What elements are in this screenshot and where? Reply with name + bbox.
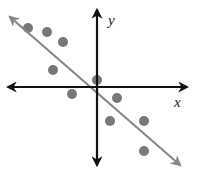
data-point — [48, 65, 58, 75]
y-axis-label: y — [106, 12, 115, 28]
data-point — [42, 27, 52, 37]
data-point — [139, 116, 149, 126]
data-point — [112, 93, 122, 103]
data-point — [58, 37, 68, 47]
data-point — [67, 89, 77, 99]
x-axis-label: x — [173, 94, 181, 110]
data-point — [139, 146, 149, 156]
data-points — [23, 23, 149, 156]
trend-line — [10, 17, 180, 165]
scatter-plot: x y — [0, 0, 197, 189]
data-point — [105, 116, 115, 126]
